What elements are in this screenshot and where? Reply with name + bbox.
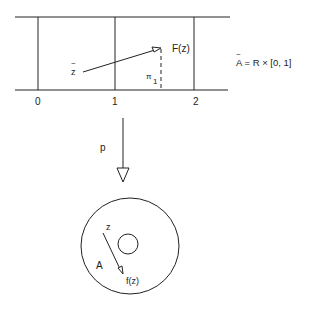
- lift-arrow-shaft: [83, 50, 155, 72]
- tick-label-2: 2: [193, 96, 199, 107]
- annulus-region-label: A: [96, 260, 103, 271]
- map-arrow-shaft: [103, 233, 120, 269]
- annulus-inner-circle: [118, 234, 138, 254]
- covering-map-head-icon: [117, 168, 129, 182]
- annulus-image-label: f(z): [126, 276, 139, 286]
- projection-subscript: 1: [153, 77, 158, 86]
- covering-map-arrow: [117, 118, 129, 182]
- tick-label-0: 0: [35, 96, 41, 107]
- strip: [15, 17, 230, 90]
- map-arrow-head-icon: [118, 266, 123, 274]
- lifted-image-label: F(z): [172, 43, 190, 54]
- annulus-point-label: z: [106, 222, 111, 232]
- space-equation: A = R × [0, 1]: [236, 57, 291, 68]
- lift-arrow-head-icon: [152, 47, 161, 52]
- covering-map-label: p: [100, 142, 106, 153]
- projection-label: π: [146, 72, 152, 81]
- tick-label-1: 1: [112, 96, 118, 107]
- lifted-point-label: z: [71, 67, 76, 77]
- diagram-canvas: 0 1 2 ~ z F(z) π 1 ~ A = R × [0, 1] p z …: [0, 0, 314, 315]
